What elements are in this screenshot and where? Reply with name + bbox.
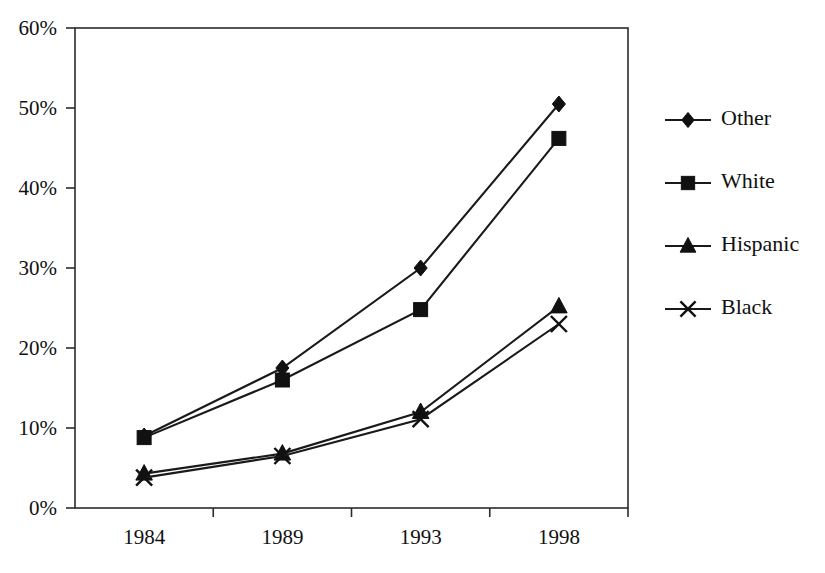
y-axis-tick-label: 20% bbox=[19, 336, 58, 360]
x-axis-tick-label: 1984 bbox=[123, 525, 166, 549]
x-axis-tick-label: 1993 bbox=[400, 525, 442, 549]
y-axis-tick-label: 30% bbox=[19, 256, 58, 280]
y-axis-tick-label: 0% bbox=[29, 496, 57, 520]
chart-background bbox=[0, 0, 825, 573]
x-axis-tick-label: 1989 bbox=[261, 525, 303, 549]
marker-square bbox=[681, 176, 694, 189]
chart-canvas: 0%10%20%30%40%50%60% 1984198919931998 Ot… bbox=[0, 0, 825, 573]
marker-square bbox=[414, 303, 428, 317]
line-chart: 0%10%20%30%40%50%60% 1984198919931998 Ot… bbox=[0, 0, 825, 573]
marker-square bbox=[552, 131, 566, 145]
y-axis-tick-label: 50% bbox=[19, 96, 58, 120]
x-axis-tick-label: 1998 bbox=[538, 525, 580, 549]
legend-label: Other bbox=[721, 105, 772, 130]
y-axis-tick-label: 60% bbox=[19, 16, 58, 40]
y-axis-tick-label: 40% bbox=[19, 176, 58, 200]
marker-square bbox=[275, 373, 289, 387]
legend-label: Black bbox=[721, 294, 772, 319]
legend-label: White bbox=[721, 168, 775, 193]
y-axis-tick-label: 10% bbox=[19, 416, 58, 440]
legend-label: Hispanic bbox=[721, 231, 799, 256]
marker-square bbox=[137, 431, 151, 445]
